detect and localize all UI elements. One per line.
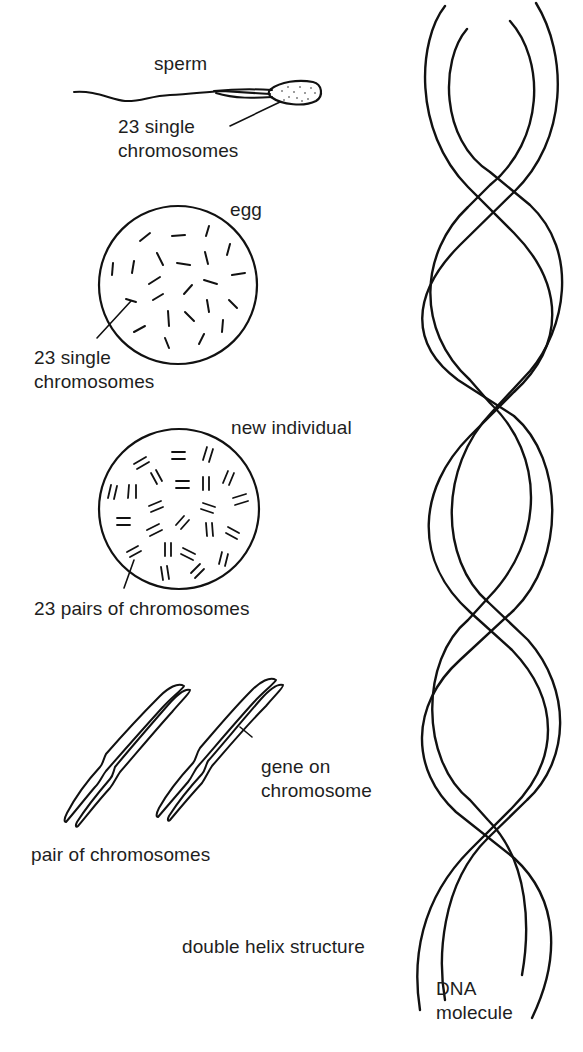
sperm-title: sperm — [154, 52, 207, 75]
chromosome-pair-caption: pair of chromosomes — [31, 843, 210, 866]
sperm-head — [269, 81, 321, 105]
helix-strand-b-outer — [422, 3, 558, 1018]
dna-double-helix — [417, 3, 562, 1018]
egg-annotation-line1: 23 single — [34, 346, 111, 369]
new-individual-title: new individual — [231, 416, 352, 439]
new-individual-annotation: 23 pairs of chromosomes — [34, 597, 250, 620]
paired-chromosomes — [108, 447, 248, 580]
sperm-illustration — [74, 81, 321, 126]
dna-title-line1: DNA — [436, 977, 476, 1000]
egg-title: egg — [230, 198, 262, 221]
egg-annotation-line2: chromosomes — [34, 370, 154, 393]
gene-label-line1: gene on — [261, 755, 330, 778]
new-individual-outline — [99, 429, 259, 589]
sperm-tail — [74, 91, 270, 101]
chromosome-pair-illustration — [65, 679, 283, 827]
gene-label-line2: chromosome — [261, 779, 372, 802]
egg-outline — [99, 206, 257, 364]
sperm-head-dots — [281, 86, 316, 102]
sperm-pointer-line — [230, 102, 280, 126]
left-chromatid-pair — [65, 685, 190, 827]
egg-illustration — [97, 206, 257, 364]
sperm-annotation-line2: chromosomes — [118, 139, 238, 162]
egg-chromosomes — [112, 226, 245, 348]
dna-title-line2: molecule — [436, 1001, 513, 1024]
sperm-annotation-line1: 23 single — [118, 115, 195, 138]
helix-strand-a-outer — [417, 6, 552, 1010]
helix-structure-label: double helix structure — [182, 935, 365, 958]
new-individual-illustration — [99, 429, 259, 589]
